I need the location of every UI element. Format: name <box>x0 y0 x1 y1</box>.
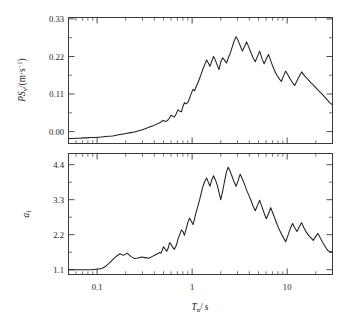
top-panel-y-minor-ticks <box>69 38 73 113</box>
bottom-panel-x-ticks-bottom <box>69 269 333 275</box>
bottom-panel-frame <box>69 154 333 275</box>
chart-svg: 0.00 0.11 0.22 0.33 PSv/(m·s−1) <box>0 0 350 329</box>
x-axis-title: Tn/ s <box>191 302 208 313</box>
svg-text:PSv/(m·s−1): PSv/(m·s−1) <box>16 58 28 102</box>
top-panel-x-ticks-bottom <box>69 138 333 144</box>
bottom-ytick-label-3: 4.4 <box>53 160 64 170</box>
top-panel-frame <box>69 18 333 144</box>
bottom-yaxis-subscript: f <box>25 210 32 213</box>
xtick-label-1: 1 <box>190 282 194 292</box>
svg-text:af: af <box>21 210 32 218</box>
bottom-panel: 1.1 2.2 3.3 4.4 af <box>21 154 333 275</box>
bottom-ytick-label-2: 3.3 <box>53 195 64 205</box>
top-panel-y-right-ticks <box>327 19 333 132</box>
top-panel-data-curve <box>69 37 333 139</box>
x-axis-divider: / s <box>200 302 209 312</box>
bottom-panel-y-axis-title: af <box>21 210 32 218</box>
bottom-panel-x-ticks-top <box>69 154 333 160</box>
top-panel-y-axis-title: PSv/(m·s−1) <box>16 58 28 102</box>
top-ytick-label-1: 0.11 <box>49 89 64 99</box>
top-panel-x-ticks-top <box>69 18 333 24</box>
bottom-panel-y-minor-ticks <box>69 182 73 252</box>
top-yaxis-prefix: PS <box>17 91 27 103</box>
top-yaxis-unit-close: ) <box>17 58 28 61</box>
top-ytick-label-0: 0.00 <box>49 127 64 137</box>
top-panel: 0.00 0.11 0.22 0.33 PSv/(m·s−1) <box>16 14 333 144</box>
figure-container: 0.00 0.11 0.22 0.33 PSv/(m·s−1) <box>0 0 350 329</box>
xtick-label-0: 0.1 <box>92 282 103 292</box>
bottom-ytick-label-1: 2.2 <box>53 230 64 240</box>
bottom-ytick-label-0: 1.1 <box>53 265 64 275</box>
top-ytick-label-3: 0.33 <box>49 14 64 24</box>
bottom-panel-data-curve <box>69 167 333 270</box>
bottom-panel-y-right-ticks <box>327 165 333 270</box>
top-ytick-label-2: 0.22 <box>49 52 64 62</box>
xtick-label-2: 10 <box>283 282 292 292</box>
top-yaxis-unit-exp: −1 <box>16 61 23 68</box>
x-axis-labels: 0.1110 <box>92 282 292 292</box>
